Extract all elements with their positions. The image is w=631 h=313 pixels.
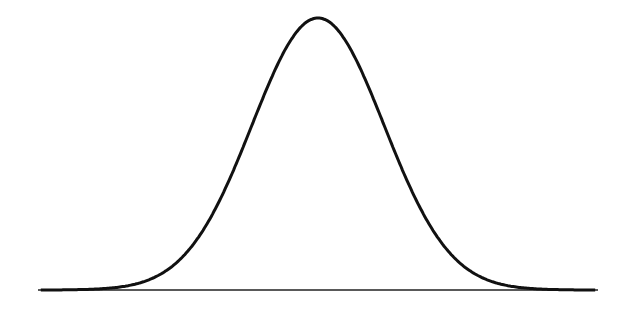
bell-curve-chart: [0, 0, 631, 313]
normal-distribution-curve: [41, 18, 595, 290]
